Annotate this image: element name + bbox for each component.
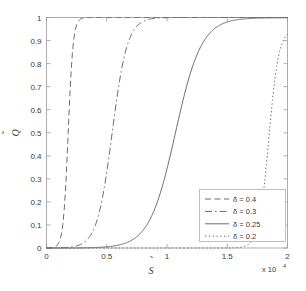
- svg-text:Q: Q: [10, 129, 21, 137]
- y-axis-tick-labels: 00.10.20.30.40.50.60.70.80.91: [30, 14, 42, 254]
- y-axis-title: Q ˜: [1, 129, 22, 137]
- figure-canvas: 00.511.52 00.10.20.30.40.50.60.70.80.91 …: [0, 0, 306, 291]
- x-axis-multiplier: x 10 4: [262, 263, 286, 274]
- legend-label: δ = 0.3: [233, 207, 256, 216]
- y-tick-label: 1: [37, 14, 42, 23]
- y-tick-label: 0.6: [30, 106, 42, 115]
- y-tick-label: 0.3: [30, 175, 42, 184]
- legend-label: δ = 0.2: [233, 232, 256, 241]
- chart-legend[interactable]: δ = 0.4δ = 0.3δ = 0.25δ = 0.2: [200, 190, 286, 242]
- y-tick-label: 0.9: [30, 37, 42, 46]
- x-tick-label: 2: [285, 252, 290, 261]
- svg-text:4: 4: [283, 263, 286, 269]
- y-tick-label: 0.7: [30, 83, 42, 92]
- legend-label: δ = 0.4: [233, 195, 256, 204]
- y-tick-label: 0.5: [30, 129, 42, 138]
- chart-svg: 00.511.52 00.10.20.30.40.50.60.70.80.91 …: [0, 0, 306, 291]
- svg-text:˜: ˜: [149, 255, 153, 266]
- svg-text:x 10: x 10: [262, 265, 276, 274]
- y-tick-label: 0.2: [30, 198, 42, 207]
- x-axis-title: S ˜: [149, 255, 154, 277]
- y-tick-label: 0: [37, 244, 42, 253]
- svg-text:S: S: [149, 265, 154, 276]
- y-tick-label: 0.1: [30, 221, 42, 230]
- y-tick-label: 0.8: [30, 60, 42, 69]
- x-tick-label: 1.5: [222, 252, 234, 261]
- x-axis-tick-labels: 00.511.52: [44, 252, 290, 261]
- x-tick-label: 0.5: [101, 252, 113, 261]
- y-tick-label: 0.4: [30, 152, 42, 161]
- legend-label: δ = 0.25: [233, 220, 260, 229]
- x-tick-label: 0: [44, 252, 49, 261]
- x-tick-label: 1: [165, 252, 170, 261]
